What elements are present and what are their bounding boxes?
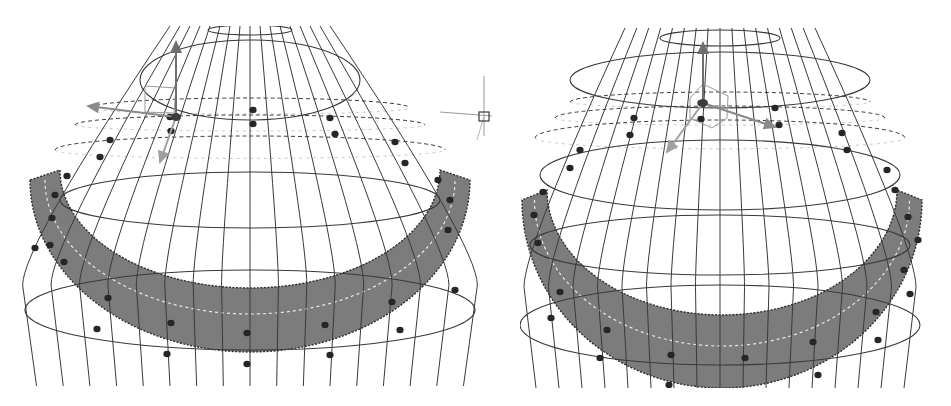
control-point[interactable] — [603, 327, 610, 333]
control-point[interactable] — [434, 177, 441, 183]
control-point[interactable] — [838, 130, 845, 136]
control-point[interactable] — [891, 187, 898, 193]
band-fill — [522, 190, 922, 388]
gizmo-origin[interactable] — [698, 99, 708, 107]
gizmo-origin[interactable] — [171, 113, 181, 121]
control-point[interactable] — [809, 339, 816, 345]
control-point[interactable] — [48, 215, 55, 221]
mesh-group — [23, 25, 478, 386]
control-point[interactable] — [665, 382, 672, 388]
control-point[interactable] — [775, 122, 782, 128]
control-point[interactable] — [31, 245, 38, 251]
control-point[interactable] — [388, 299, 395, 305]
control-point[interactable] — [444, 227, 451, 233]
control-point[interactable] — [60, 259, 67, 265]
control-point[interactable] — [326, 115, 333, 121]
control-point[interactable] — [667, 352, 674, 358]
figure — [0, 0, 951, 406]
x-axis[interactable] — [88, 106, 176, 117]
control-point[interactable] — [539, 189, 546, 195]
cursor-z-line — [477, 116, 484, 140]
control-point[interactable] — [530, 212, 537, 218]
control-point[interactable] — [904, 214, 911, 220]
control-point[interactable] — [900, 267, 907, 273]
control-point[interactable] — [596, 355, 603, 361]
control-point[interactable] — [396, 327, 403, 333]
control-point[interactable] — [249, 107, 256, 113]
control-point[interactable] — [914, 237, 921, 243]
control-point[interactable] — [534, 240, 541, 246]
control-point[interactable] — [46, 242, 53, 248]
wireframe-view-right — [500, 0, 951, 406]
mesh-group — [520, 28, 922, 388]
control-point[interactable] — [326, 352, 333, 358]
control-point[interactable] — [331, 131, 338, 137]
control-point[interactable] — [243, 330, 250, 336]
control-point[interactable] — [451, 287, 458, 293]
control-point[interactable] — [843, 147, 850, 153]
control-point[interactable] — [626, 132, 633, 138]
control-point[interactable] — [167, 320, 174, 326]
x-arrow-icon[interactable] — [86, 101, 100, 113]
control-point[interactable] — [883, 167, 890, 173]
control-point[interactable] — [104, 295, 111, 301]
wireframe-view-left — [0, 0, 500, 406]
control-point[interactable] — [906, 291, 913, 297]
viewport-left[interactable] — [0, 0, 500, 406]
control-point[interactable] — [874, 337, 881, 343]
control-point[interactable] — [163, 351, 170, 357]
control-point[interactable] — [93, 326, 100, 332]
control-point[interactable] — [96, 154, 103, 160]
control-point[interactable] — [249, 121, 256, 127]
control-point[interactable] — [321, 322, 328, 328]
transform-gizmo[interactable] — [666, 41, 777, 154]
control-point[interactable] — [243, 361, 250, 367]
control-point[interactable] — [576, 147, 583, 153]
selected-face-band[interactable] — [522, 190, 922, 388]
control-point[interactable] — [697, 116, 704, 122]
viewport-right[interactable] — [500, 0, 951, 406]
control-point[interactable] — [872, 309, 879, 315]
crosshair-cursor-icon — [440, 76, 492, 140]
control-point[interactable] — [556, 289, 563, 295]
control-point[interactable] — [106, 137, 113, 143]
control-point[interactable] — [391, 139, 398, 145]
control-point[interactable] — [446, 197, 453, 203]
control-point[interactable] — [814, 372, 821, 378]
x-arrow-icon[interactable] — [763, 118, 777, 129]
control-point[interactable] — [630, 115, 637, 121]
control-point[interactable] — [741, 355, 748, 361]
transform-gizmo[interactable] — [86, 40, 182, 164]
control-point[interactable] — [63, 173, 70, 179]
control-point[interactable] — [401, 160, 408, 166]
control-point[interactable] — [547, 315, 554, 321]
control-point[interactable] — [51, 192, 58, 198]
control-point[interactable] — [771, 105, 778, 111]
control-point[interactable] — [566, 165, 573, 171]
